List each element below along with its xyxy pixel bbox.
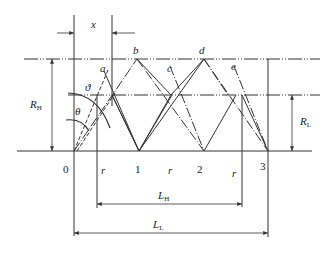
dashdot-0-to-b (74, 59, 137, 151)
theta-label: θ (75, 105, 81, 117)
dashdot-a-line (104, 71, 139, 151)
rh-label: RH (29, 98, 42, 112)
r-label-3: r (232, 167, 237, 179)
lh-label: LH (157, 189, 169, 203)
point-3-label: 3 (260, 160, 266, 172)
point-0-label: 0 (63, 163, 69, 175)
point-a-label: a (100, 62, 106, 74)
dashdot-c-line (170, 66, 204, 151)
line-2-to-e (204, 95, 236, 151)
r-label-1: r (101, 164, 106, 176)
vartheta-label: ϑ (85, 81, 91, 93)
dashdot-d-to-3 (204, 59, 268, 151)
line-e-to-3 (242, 95, 268, 151)
ll-label: LL (152, 218, 163, 232)
point-e-label: e (231, 60, 236, 72)
point-2-label: 2 (197, 163, 203, 175)
dashdot-e-line (234, 66, 268, 151)
r-label-2: r (168, 164, 173, 176)
rl-label: RL (299, 115, 311, 129)
line-1-to-c (139, 95, 172, 151)
point-c-label: c (167, 62, 172, 74)
dashed-origin-2 (77, 93, 115, 151)
point-1-label: 1 (135, 163, 141, 175)
angle-arc-theta (66, 120, 89, 131)
x-label: x (90, 18, 96, 30)
line-b-to-1 (137, 59, 171, 95)
point-b-label: b (133, 44, 139, 56)
zigzag-high-solid (112, 59, 204, 151)
point-d-label: d (199, 44, 205, 56)
helical-zigzag-diagram: x RH RL LH LL ϑ θ a b c d e 0 1 2 3 r r … (0, 0, 331, 253)
